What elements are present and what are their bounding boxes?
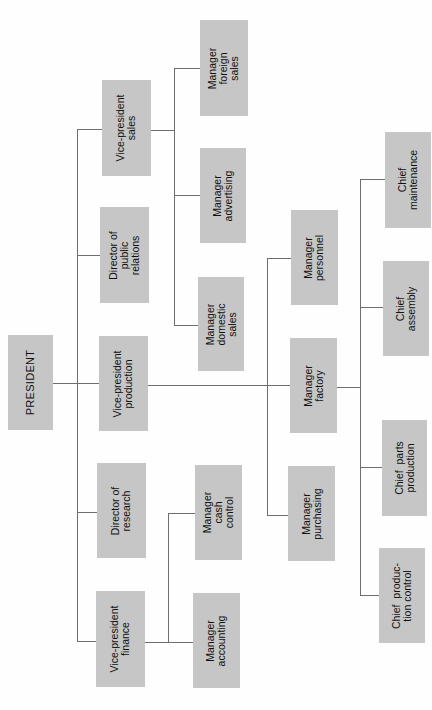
connector-finance-out — [145, 642, 194, 643]
node-label: PRESIDENT — [25, 350, 36, 416]
production-spine — [267, 258, 268, 516]
node-label: Manager foreign sales — [207, 47, 240, 88]
connector-president-spine — [53, 383, 78, 384]
node-chief-parts-production: Chief parts production — [382, 420, 427, 516]
node-chief-assembly: Chief assembly — [383, 261, 429, 356]
main-spine — [77, 129, 78, 642]
connector-advertising — [174, 195, 200, 196]
node-label: Vice-president sales — [116, 95, 138, 162]
connector-dir-research — [77, 512, 97, 513]
node-label: Vice-president finance — [110, 606, 132, 673]
node-label: Chief assembly — [395, 286, 417, 330]
node-mgr-factory: Manager factory — [290, 338, 337, 433]
org-chart: PRESIDENT Vice-president sales Director … — [0, 0, 432, 710]
node-mgr-advertising: Manager advertising — [200, 148, 246, 243]
node-chief-production-control: Chief produc- tion control — [379, 548, 425, 643]
connector-vp-production — [77, 383, 99, 384]
connector-production-control — [360, 595, 379, 596]
connector-dir-public-relations — [77, 255, 100, 256]
factory-spine — [360, 179, 361, 596]
sales-spine — [174, 68, 175, 326]
node-dir-public-relations: Director of public relations — [100, 207, 149, 303]
connector-maintenance — [360, 179, 385, 180]
connector-vp-sales — [77, 129, 102, 130]
connector-domestic-sales — [174, 325, 198, 326]
node-mgr-accounting: Manager accounting — [193, 593, 240, 688]
connector-production-factory — [148, 385, 290, 386]
connector-purchasing — [267, 515, 288, 516]
node-mgr-foreign-sales: Manager foreign sales — [200, 20, 248, 116]
node-label: Manager accounting — [206, 615, 228, 666]
node-label: Vice-president production — [113, 350, 135, 417]
node-chief-maintenance: Chief maintenance — [385, 132, 431, 228]
connector-vp-finance — [77, 641, 96, 642]
node-label: Chief produc- tion control — [391, 563, 413, 629]
connector-personnel — [267, 258, 291, 259]
finance-spine — [168, 513, 169, 643]
node-label: Chief maintenance — [397, 150, 419, 210]
node-label: Director of research — [111, 486, 133, 534]
node-dir-research: Director of research — [97, 463, 146, 558]
node-label: Manager personnel — [304, 234, 326, 280]
connector-cash-control — [168, 513, 195, 514]
connector-assembly — [360, 307, 383, 308]
node-mgr-domestic-sales: Manager domestic sales — [198, 277, 244, 371]
node-label: Manager factory — [302, 365, 324, 406]
node-mgr-cash-control: Manager cash control — [195, 465, 242, 560]
node-label: Chief parts production — [394, 441, 416, 495]
node-label: Manager domestic sales — [204, 303, 237, 345]
node-mgr-purchasing: Manager purchasing — [288, 466, 335, 561]
node-label: Manager purchasing — [301, 488, 323, 539]
node-label: Manager cash control — [202, 492, 235, 533]
connector-foreign-sales — [174, 68, 200, 69]
connector-sales-out — [151, 130, 175, 131]
node-vp-sales: Vice-president sales — [102, 80, 151, 176]
node-vp-finance: Vice-president finance — [96, 591, 145, 687]
node-label: Director of public relations — [108, 231, 141, 279]
node-president: PRESIDENT — [8, 335, 53, 430]
connector-factory-out — [337, 387, 361, 388]
node-mgr-personnel: Manager personnel — [291, 210, 338, 305]
node-label: Manager advertising — [212, 170, 234, 221]
node-vp-production: Vice-president production — [99, 336, 148, 431]
connector-parts-production — [360, 467, 382, 468]
